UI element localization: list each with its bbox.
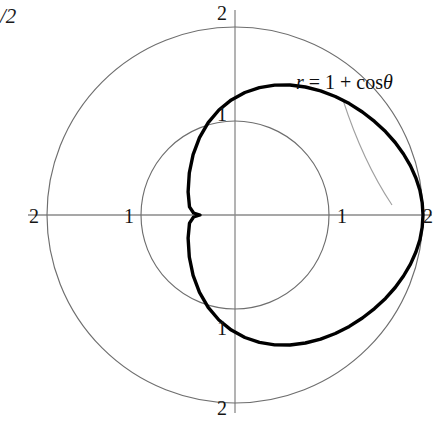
curve-equation-label: r = 1 + cosθ (296, 72, 393, 92)
polar-plot-figure: /2 2 1 1 2 2 1 1 2 r = 1 + cosθ (0, 0, 435, 427)
tick-label-bottom-outer: 2 (217, 398, 227, 418)
tick-label-left-outer: 2 (29, 206, 39, 226)
tick-label-bottom-inner: 1 (217, 318, 227, 338)
tick-label-left-inner: 1 (124, 206, 134, 226)
tick-label-right-outer: 2 (423, 206, 433, 226)
tick-label-top-outer: 2 (217, 3, 227, 23)
curve-equation-theta: θ (383, 71, 393, 93)
polar-plot-canvas (0, 0, 435, 427)
curve-equation-expression: = 1 + cos (304, 71, 383, 93)
tick-label-top-inner: 1 (217, 104, 227, 124)
axis-angle-label: /2 (0, 6, 16, 27)
tick-label-right-inner: 1 (337, 206, 347, 226)
curve-equation-variable: r (296, 71, 304, 93)
